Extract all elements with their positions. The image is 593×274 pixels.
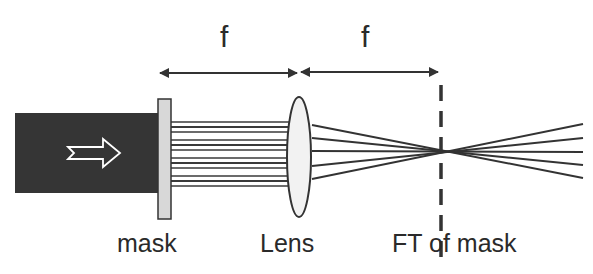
input-beam: [15, 113, 159, 193]
mask: [158, 99, 171, 219]
parallel-rays: [170, 122, 290, 186]
focal-length-label-1: f: [220, 20, 228, 54]
mask-label: mask: [117, 229, 177, 258]
lens-label: Lens: [260, 229, 314, 258]
converging-rays: [312, 124, 583, 179]
lens: [287, 97, 311, 217]
ft-of-mask-label: FT of mask: [392, 229, 517, 258]
focal-length-label-2: f: [361, 20, 369, 54]
